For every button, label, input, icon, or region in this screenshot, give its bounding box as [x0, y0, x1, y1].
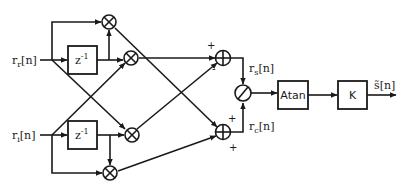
atan-block: Atan	[278, 81, 308, 109]
adder-top-sign-plus: +	[207, 40, 215, 51]
block-diagram: rr[n] ri[n] z-1 z-1	[0, 0, 408, 189]
multiplier-3	[125, 128, 139, 142]
delay-block-top: z-1	[68, 46, 97, 74]
input-imag-label: ri[n]	[12, 129, 36, 144]
multiplier-1	[102, 15, 116, 29]
rs-label: rs[n]	[249, 62, 274, 77]
delay-block-bottom: z-1	[68, 121, 97, 149]
adder-bottom: + +	[216, 113, 238, 153]
adder-bottom-sign-plus-1: +	[228, 113, 236, 124]
output-label: s̃[n]	[374, 79, 395, 92]
multiplier-2	[124, 51, 138, 65]
rc-label: rc[n]	[249, 120, 274, 135]
atan-label: Atan	[280, 89, 305, 102]
gain-block: K	[338, 81, 367, 109]
gain-label: K	[349, 89, 357, 102]
divider-node	[235, 85, 251, 101]
adder-bottom-sign-plus-2: +	[229, 142, 237, 153]
multiplier-4	[103, 166, 117, 180]
adder-top-sign-minus: -	[212, 63, 216, 74]
cross-wires	[115, 28, 217, 171]
input-real-label: rr[n]	[12, 54, 37, 69]
